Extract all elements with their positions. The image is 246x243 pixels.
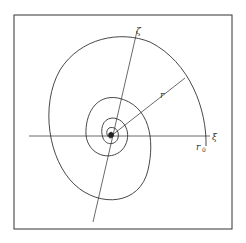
r0-label: r [196, 142, 201, 152]
zeta-label: ζ [136, 26, 142, 36]
frame [14, 15, 232, 229]
xi-label: ξ [212, 132, 218, 142]
zeta-axis [93, 31, 137, 222]
log-spiral [49, 37, 206, 200]
radius-label: r [160, 90, 165, 100]
r0-subscript: 0 [202, 146, 206, 153]
spiral-center [108, 132, 114, 138]
spiral-diagram: ξ ζ r r 0 [0, 0, 246, 243]
